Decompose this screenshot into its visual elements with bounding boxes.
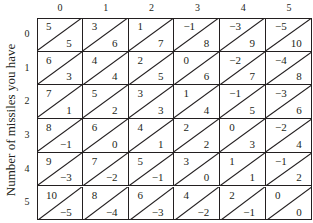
- diagonal-divider: [174, 153, 219, 186]
- upper-payoff: 0: [183, 54, 189, 66]
- payoff-cell: −15: [220, 85, 266, 119]
- diagonal-divider: [174, 119, 219, 152]
- row-header: 2: [20, 95, 34, 106]
- upper-payoff: 7: [46, 87, 52, 99]
- lower-payoff: −1: [152, 171, 164, 183]
- diagonal-divider: [174, 85, 219, 118]
- upper-payoff: −2: [275, 121, 287, 133]
- lower-payoff: 7: [249, 70, 255, 82]
- diagonal-divider: [37, 85, 82, 118]
- payoff-cell: −27: [220, 52, 266, 86]
- lower-payoff: −2: [106, 171, 118, 183]
- upper-payoff: 3: [138, 87, 144, 99]
- upper-payoff: 8: [46, 121, 52, 133]
- lower-payoff: 5: [66, 37, 72, 49]
- upper-payoff: 4: [183, 189, 189, 201]
- upper-payoff: −1: [183, 20, 195, 32]
- upper-payoff: 5: [138, 155, 144, 167]
- lower-payoff: 9: [249, 37, 255, 49]
- lower-payoff: 4: [204, 104, 210, 116]
- payoff-cell: 8−1: [37, 119, 83, 153]
- payoff-cell: 10−5: [37, 187, 83, 221]
- payoff-cell: 60: [83, 119, 129, 153]
- column-header: 3: [174, 2, 220, 16]
- lower-payoff: −2: [197, 206, 209, 218]
- lower-payoff: 3: [158, 104, 164, 116]
- payoff-cell: −36: [266, 85, 312, 119]
- diagonal-divider: [220, 52, 265, 85]
- diagonal-divider: [129, 119, 174, 152]
- column-header: 0: [37, 2, 83, 16]
- payoff-cell: 2−1: [220, 187, 266, 221]
- payoff-cell: −12: [266, 153, 312, 187]
- upper-payoff: 2: [183, 121, 189, 133]
- upper-payoff: 5: [92, 87, 98, 99]
- diagonal-divider: [266, 119, 312, 152]
- upper-payoff: 8: [92, 189, 98, 201]
- payoff-cell: 17: [129, 18, 175, 52]
- payoff-cell: 22: [174, 119, 220, 153]
- diagonal-divider: [220, 153, 265, 186]
- row-header: 1: [20, 62, 34, 73]
- diagonal-divider: [83, 18, 128, 51]
- upper-payoff: 2: [138, 54, 144, 66]
- column-header: 1: [83, 2, 129, 16]
- upper-payoff: 1: [183, 87, 189, 99]
- lower-payoff: −3: [60, 171, 72, 183]
- payoff-cell: 06: [174, 52, 220, 86]
- y-axis-label-text: Number of missiles you have: [3, 44, 19, 196]
- payoff-cell: 8−4: [83, 187, 129, 221]
- lower-payoff: 7: [158, 37, 164, 49]
- diagonal-divider: [266, 52, 312, 85]
- upper-payoff: 4: [92, 54, 98, 66]
- lower-payoff: 2: [296, 171, 302, 183]
- upper-payoff: −3: [275, 87, 287, 99]
- payoff-cell: 52: [83, 85, 129, 119]
- column-header: 4: [220, 2, 266, 16]
- payoff-cell: 55: [37, 18, 83, 52]
- payoff-cell: −48: [266, 52, 312, 86]
- upper-payoff: 3: [183, 155, 189, 167]
- payoff-cell: −510: [266, 18, 312, 52]
- diagonal-divider: [83, 85, 128, 118]
- lower-payoff: 2: [112, 104, 118, 116]
- diagonal-divider: [37, 18, 82, 51]
- diagonal-divider: [129, 85, 174, 118]
- upper-payoff: 7: [92, 155, 98, 167]
- upper-payoff: 4: [138, 121, 144, 133]
- lower-payoff: 4: [112, 70, 118, 82]
- lower-payoff: 10: [291, 37, 302, 49]
- upper-payoff: 1: [138, 20, 144, 32]
- lower-payoff: −3: [152, 206, 164, 218]
- payoff-cell: −18: [174, 18, 220, 52]
- payoff-cell: 6−3: [129, 187, 175, 221]
- lower-payoff: 1: [66, 104, 72, 116]
- payoff-cell: 00: [266, 187, 312, 221]
- payoff-cell: 25: [129, 52, 175, 86]
- column-header: 5: [266, 2, 312, 16]
- lower-payoff: 6: [296, 104, 302, 116]
- payoff-cell: 63: [37, 52, 83, 86]
- diagonal-divider: [220, 18, 265, 51]
- row-header: 3: [20, 129, 34, 140]
- payoff-cell: 44: [83, 52, 129, 86]
- payoff-cell: 7−2: [83, 153, 129, 187]
- upper-payoff: 6: [92, 121, 98, 133]
- lower-payoff: 6: [204, 70, 210, 82]
- diagonal-divider: [83, 119, 128, 152]
- lower-payoff: 1: [249, 171, 255, 183]
- upper-payoff: −1: [275, 155, 287, 167]
- upper-payoff: 3: [92, 20, 98, 32]
- lower-payoff: 5: [158, 70, 164, 82]
- row-header: 4: [20, 163, 34, 174]
- payoff-cell: 30: [174, 153, 220, 187]
- diagonal-divider: [83, 52, 128, 85]
- lower-payoff: 0: [112, 138, 118, 150]
- upper-payoff: −2: [229, 54, 241, 66]
- lower-payoff: 1: [158, 138, 164, 150]
- diagonal-divider: [220, 119, 265, 152]
- lower-payoff: 5: [249, 104, 255, 116]
- upper-payoff: 0: [275, 189, 281, 201]
- upper-payoff: 10: [46, 189, 57, 201]
- upper-payoff: 2: [229, 189, 235, 201]
